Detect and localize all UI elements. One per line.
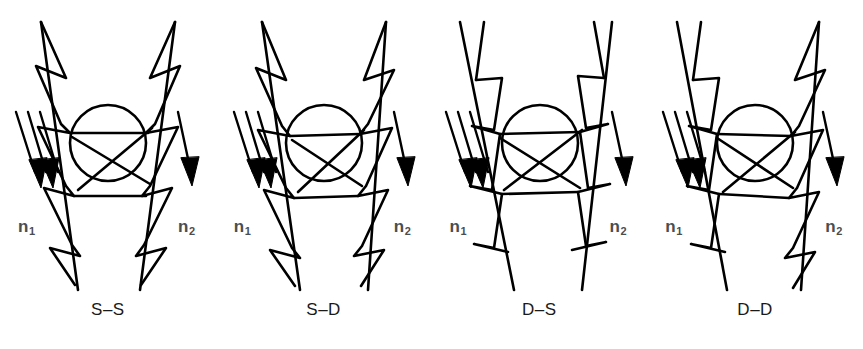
ray-chord-upper bbox=[717, 134, 791, 136]
incoming-ray-group bbox=[446, 112, 489, 188]
ray-diagram-svg bbox=[0, 0, 216, 300]
figure-root: n1 n2 S–S bbox=[0, 0, 863, 349]
refractive-index-left-symbol: n bbox=[665, 217, 675, 236]
incoming-ray-group bbox=[234, 112, 277, 188]
refractive-index-label-left: n1 bbox=[234, 218, 251, 235]
refractive-index-label-left: n1 bbox=[665, 218, 682, 235]
right-wall-axis bbox=[582, 22, 612, 290]
refractive-index-right-subscript: 2 bbox=[836, 225, 842, 237]
right-wall-axis-secondary bbox=[594, 22, 604, 78]
outgoing-ray-group bbox=[823, 112, 844, 186]
ray-diagram-svg bbox=[647, 0, 863, 300]
outgoing-ray-head bbox=[397, 157, 415, 186]
refractive-index-label-left: n1 bbox=[450, 218, 467, 235]
refractive-index-left-subscript: 1 bbox=[460, 225, 466, 237]
refractive-index-label-right: n2 bbox=[825, 218, 842, 235]
refractive-index-right-symbol: n bbox=[825, 217, 835, 236]
diagram-panel: n1 n2 S–S bbox=[0, 0, 216, 349]
refractive-index-left-symbol: n bbox=[18, 217, 28, 236]
refractive-index-label-right: n2 bbox=[610, 218, 627, 235]
left-wall-axis bbox=[460, 22, 514, 290]
ray-chord-upper bbox=[290, 134, 360, 136]
ray-chord-lower bbox=[294, 196, 358, 198]
outgoing-ray-group bbox=[178, 112, 199, 186]
refractive-index-left-subscript: 1 bbox=[245, 225, 251, 237]
refractive-index-right-symbol: n bbox=[610, 217, 620, 236]
refractive-index-right-symbol: n bbox=[394, 217, 404, 236]
panel-caption: D–S bbox=[432, 300, 648, 320]
refractive-index-left-symbol: n bbox=[450, 217, 460, 236]
refractive-index-right-symbol: n bbox=[178, 217, 188, 236]
ray-chord-lower bbox=[502, 192, 578, 194]
diagram-panel: n1 n2 D–D bbox=[647, 0, 863, 349]
panel-caption: S–S bbox=[0, 300, 216, 320]
panel-row: n1 n2 S–S bbox=[0, 0, 863, 349]
refractive-index-right-subscript: 2 bbox=[189, 225, 195, 237]
panel-caption: D–D bbox=[647, 300, 863, 320]
refractive-index-left-subscript: 1 bbox=[29, 225, 35, 237]
refractive-index-label-right: n2 bbox=[178, 218, 195, 235]
ray-chord-diagonal-a bbox=[72, 137, 150, 184]
outgoing-ray-head bbox=[826, 157, 844, 186]
refractive-index-left-symbol: n bbox=[234, 217, 244, 236]
outgoing-ray-head bbox=[615, 157, 633, 186]
incoming-ray-group bbox=[663, 112, 706, 188]
refractive-index-label-right: n2 bbox=[394, 218, 411, 235]
outgoing-ray-group bbox=[612, 112, 633, 186]
outgoing-ray-group bbox=[394, 112, 415, 186]
ray-diagram-svg bbox=[432, 0, 648, 300]
left-wall-axis-secondary bbox=[476, 22, 484, 80]
diagram-panel: n1 n2 D–S bbox=[432, 0, 648, 349]
refractive-index-right-subscript: 2 bbox=[405, 225, 411, 237]
ray-diagram-svg bbox=[216, 0, 432, 300]
refractive-index-label-left: n1 bbox=[18, 218, 35, 235]
left-wall-axis-secondary bbox=[693, 22, 701, 80]
incoming-ray-group bbox=[16, 112, 59, 188]
refractive-index-right-subscript: 2 bbox=[620, 225, 626, 237]
panel-caption: S–D bbox=[216, 300, 432, 320]
ray-chord-diagonal-b bbox=[298, 130, 364, 192]
refractive-index-left-subscript: 1 bbox=[676, 225, 682, 237]
ray-chord-lower bbox=[719, 194, 789, 198]
outgoing-ray-head bbox=[181, 157, 199, 186]
diagram-panel: n1 n2 S–D bbox=[216, 0, 432, 349]
ray-chord-upper bbox=[500, 132, 580, 134]
